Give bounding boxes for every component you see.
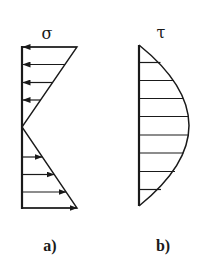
sigma-tension-arrows — [22, 157, 77, 208]
caption-a: a) — [43, 237, 56, 255]
tau-hatch-lines — [139, 63, 188, 190]
sigma-outline — [22, 47, 77, 208]
sigma-symbol: σ — [42, 24, 53, 43]
tau-parabola-curve — [139, 45, 189, 206]
stress-diagram-figure: σ a) τ — [0, 0, 207, 278]
caption-b: b) — [156, 237, 170, 255]
panel-b-tau-diagram: τ b) — [139, 23, 189, 255]
tau-symbol: τ — [157, 23, 166, 42]
sigma-compression-arrows — [23, 47, 77, 100]
panel-a-sigma-diagram: σ a) — [22, 24, 77, 255]
